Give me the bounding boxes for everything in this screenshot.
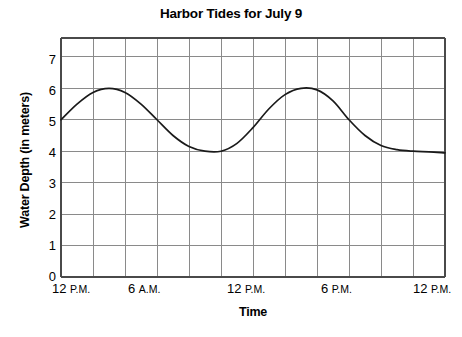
vertical-gridlines xyxy=(93,38,413,277)
tide-chart: Harbor Tides for July 9 Water Depth (in … xyxy=(0,0,462,337)
plot-area xyxy=(0,0,462,337)
